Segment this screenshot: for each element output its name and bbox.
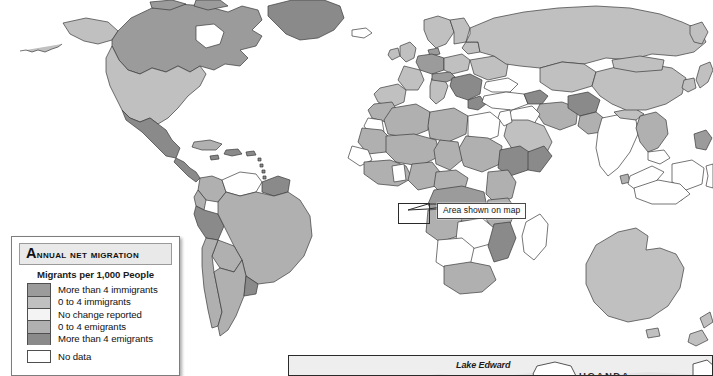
region-central-asia: [540, 62, 596, 92]
region-madagascar: [522, 214, 548, 260]
area-shown-callout[interactable]: Area shown on map: [437, 203, 526, 219]
legend-row[interactable]: 0 to 4 emigrants: [18, 320, 173, 332]
region-alaska: [63, 18, 118, 44]
legend-title-rest: nnual Net Migration: [37, 248, 139, 260]
inset-label-uganda: UGANDA: [579, 370, 630, 376]
region-turkey: [482, 92, 528, 110]
region-caucasus: [524, 90, 548, 104]
legend-row[interactable]: More than 4 emigrants: [18, 333, 173, 345]
region-tasmania: [646, 328, 660, 338]
legend-swatch-0-to-4-emigrants: [27, 320, 51, 332]
region-australia: [586, 228, 684, 322]
region-algeria: [384, 104, 430, 138]
legend-label: More than 4 emigrants: [58, 333, 153, 344]
legend-label: More than 4 immigrants: [58, 284, 158, 295]
legend-swatch-more-than-4-emigrants: [27, 333, 51, 345]
legend-label: No data: [58, 351, 91, 362]
region-cuba: [192, 140, 222, 150]
inset-detail-map[interactable]: Lake Edward UGANDA: [288, 355, 713, 376]
region-hispaniola: [224, 149, 242, 156]
legend-subtitle: Migrants per 1,000 People: [18, 269, 173, 280]
region-libya: [428, 108, 468, 142]
legend-row[interactable]: No change reported: [18, 308, 173, 320]
legend-inner-frame: Annual Net Migration Migrants per 1,000 …: [17, 241, 174, 375]
legend-row-no-data[interactable]: No data: [18, 350, 173, 363]
region-russia: [466, 6, 706, 68]
region-japan: [696, 62, 713, 88]
region-greenland: [268, 0, 344, 40]
legend-swatch-no-change-reported: [27, 308, 51, 320]
legend-row[interactable]: 0 to 4 immigrants: [18, 296, 173, 308]
map-page: Area shown on map Annual Net Migration M…: [0, 0, 713, 376]
region-central-america: [174, 158, 200, 182]
legend-title: Annual Net Migration: [26, 246, 165, 261]
region-norway-sweden: [424, 16, 454, 48]
region-sudan: [458, 136, 502, 172]
region-lesser-antilles: [258, 158, 266, 179]
region-india: [596, 114, 638, 176]
legend-title-initial: A: [26, 245, 37, 261]
region-korea: [682, 78, 696, 92]
region-southeast-asia: [636, 112, 668, 152]
area-shown-rectangle: [398, 203, 430, 224]
region-new-zealand-s: [688, 330, 708, 346]
region-balkans: [450, 74, 482, 100]
region-puerto-rico: [246, 151, 256, 156]
region-poland: [444, 54, 470, 74]
legend-label: 0 to 4 immigrants: [58, 296, 131, 307]
legend-row[interactable]: More than 4 immigrants: [18, 283, 173, 295]
region-philippines: [694, 130, 712, 150]
region-malaysia: [648, 150, 670, 164]
region-new-zealand-n: [700, 312, 713, 328]
region-jamaica: [210, 155, 219, 160]
legend-label: 0 to 4 emigrants: [58, 321, 126, 332]
inset-label-lake-edward: Lake Edward: [456, 360, 510, 370]
region-sulawesi: [706, 164, 713, 188]
region-ireland: [388, 48, 400, 60]
legend-swatch-more-than-4-immigrants: [27, 283, 51, 295]
region-south-africa: [444, 262, 496, 294]
legend-class-list: More than 4 immigrants 0 to 4 immigrants…: [18, 283, 173, 363]
region-chad: [434, 140, 462, 170]
region-baltics: [462, 42, 480, 54]
region-ghana-togo: [392, 164, 406, 182]
map-legend: Annual Net Migration Migrants per 1,000 …: [11, 236, 180, 376]
legend-swatch-0-to-4-immigrants: [27, 296, 51, 308]
legend-swatch-no-data: [27, 350, 51, 362]
region-british-isles: [400, 42, 416, 62]
legend-title-bar: Annual Net Migration: [19, 243, 172, 265]
region-aleutians: [20, 44, 62, 52]
region-iceland: [352, 28, 372, 38]
region-canada: [112, 4, 262, 74]
legend-label: No change reported: [58, 309, 142, 320]
